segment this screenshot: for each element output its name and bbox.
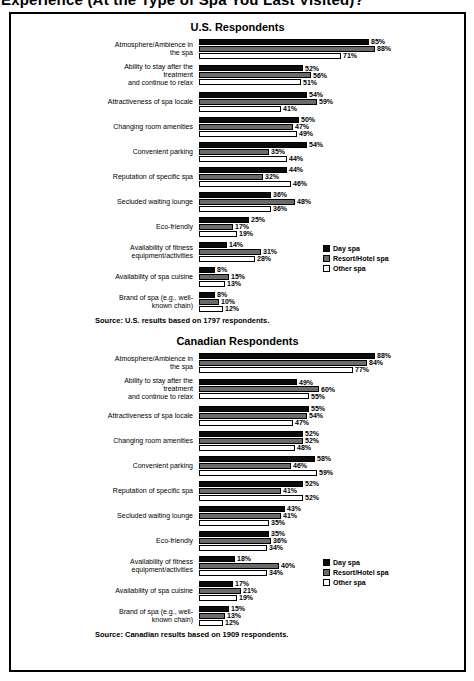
canadian-source-note: Source: Canadian results based on 1909 r… [95,630,464,639]
bar-value-label: 85% [371,38,385,45]
bar-row: 35% [199,530,464,537]
bar-row: 41% [199,487,464,494]
bar-group: Attractiveness of spa locale54%59%41% [11,91,464,112]
bar-resort-hotel-spa [199,438,303,444]
canadian-legend: Day spaResort/Hotel spaOther spa [323,559,389,589]
bar-value-label: 47% [295,419,309,426]
bar-resort-hotel-spa [199,360,367,366]
bar-value-label: 58% [317,455,331,462]
bar-row: 54% [199,91,464,98]
bar-group: Convenient parking58%46%59% [11,455,464,476]
bar-row: 52% [199,65,464,72]
bar-group: Reputation of specific spa44%32%46% [11,166,464,187]
bar-value-label: 34% [269,544,283,551]
bar-value-label: 35% [271,530,285,537]
bar-row: 35% [199,148,464,155]
bar-group: Secluded waiting lounge43%41%35% [11,505,464,526]
bar-day-spa [199,192,271,198]
bar-row: 55% [199,393,464,400]
bar-day-spa [199,142,307,148]
bar-row: 44% [199,155,464,162]
bar-value-label: 19% [239,594,253,601]
us-chart-title: U.S. Respondents [11,21,464,33]
bar-rows: 85%88%71% [199,38,464,59]
bar-row: 47% [199,123,464,130]
category-label: Attractiveness of spa locale [11,412,199,420]
bar-value-label: 59% [319,98,333,105]
legend-label: Other spa [333,579,366,586]
category-label: Attractiveness of spa locale [11,98,199,106]
legend-label: Resort/Hotel spa [333,255,389,262]
bar-group: Secluded waiting lounge36%48%36% [11,191,464,212]
bar-value-label: 17% [235,580,249,587]
bar-day-spa [199,242,227,248]
bar-rows: 50%47%49% [199,116,464,137]
bar-day-spa [199,292,215,298]
legend-swatch [323,569,330,576]
bar-row: 48% [199,444,464,451]
bar-resort-hotel-spa [199,124,293,130]
bar-group: Eco-friendly35%36%34% [11,530,464,551]
category-label: Availability of spa cuisine [11,587,199,595]
bar-row: 15% [199,605,464,612]
bar-row: 43% [199,505,464,512]
legend-label: Day spa [333,559,360,566]
bar-value-label: 34% [269,569,283,576]
category-label: Convenient parking [11,462,199,470]
bar-other-spa [199,281,225,287]
bar-resort-hotel-spa [199,488,281,494]
category-label: Reputation of specific spa [11,487,199,495]
bar-row: 41% [199,512,464,519]
category-label: Atmosphere/Ambience in the spa [11,41,199,57]
bar-resort-hotel-spa [199,274,229,280]
bar-value-label: 41% [283,487,297,494]
bar-value-label: 55% [311,393,325,400]
bar-resort-hotel-spa [199,99,317,105]
bar-day-spa [199,217,249,223]
us-plot-area: Atmosphere/Ambience in the spa85%88%71%A… [11,38,464,312]
bar-row: 46% [199,462,464,469]
bar-row: 60% [199,386,464,393]
bar-row: 48% [199,198,464,205]
bar-group: Availability of spa cuisine8%15%13% [11,266,464,287]
bar-row: 19% [199,230,464,237]
category-label: Eco-friendly [11,223,199,231]
bar-value-label: 77% [355,366,369,373]
bar-resort-hotel-spa [199,413,307,419]
bar-rows: 43%41%35% [199,505,464,526]
bar-row: 56% [199,72,464,79]
bar-value-label: 46% [293,180,307,187]
bar-row: 50% [199,116,464,123]
bar-row: 71% [199,52,464,59]
bar-value-label: 43% [287,505,301,512]
bar-value-label: 88% [377,45,391,52]
bar-value-label: 48% [297,444,311,451]
legend-item: Day spa [323,245,389,252]
bar-value-label: 36% [273,537,287,544]
bar-other-spa [199,156,287,162]
bar-other-spa [199,470,317,476]
bar-value-label: 84% [369,359,383,366]
bar-row: 10% [199,298,464,305]
bar-row: 13% [199,280,464,287]
bar-group: Attractiveness of spa locale55%54%47% [11,405,464,426]
bar-row: 59% [199,98,464,105]
bar-day-spa [199,379,297,385]
bar-group: Availability of fitness equipment/activi… [11,241,464,262]
bar-row: 12% [199,305,464,312]
bar-row: 44% [199,166,464,173]
legend-label: Other spa [333,265,366,272]
category-label: Secluded waiting lounge [11,512,199,520]
bar-value-label: 18% [237,555,251,562]
bar-rows: 55%54%47% [199,405,464,426]
us-legend: Day spaResort/Hotel spaOther spa [323,245,389,275]
bar-value-label: 52% [305,480,319,487]
bar-row: 49% [199,130,464,137]
bar-group: Brand of spa (e.g., well- known chain)15… [11,605,464,626]
bar-resort-hotel-spa [199,386,319,392]
bar-value-label: 13% [227,612,241,619]
bar-rows: 52%41%52% [199,480,464,501]
bar-value-label: 54% [309,91,323,98]
bar-group: Ability to stay after the treatment and … [11,377,464,401]
bar-row: 49% [199,379,464,386]
